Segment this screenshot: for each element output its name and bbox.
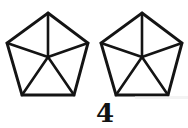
pentagon-left-spoke-lower-left [22,57,48,95]
pentagon-left-spoke-upper-right [48,43,88,57]
pentagon-right-spoke-lower-right [142,57,168,95]
pentagon-right [101,13,182,95]
figure-caption: 4 [0,99,188,127]
pentagon-right-spoke-lower-left [116,57,142,95]
pentagon-left-spoke-upper-left [7,43,48,57]
pentagon-left [7,13,88,95]
pentagon-right-spoke-upper-right [142,43,182,57]
figure-container: 4 [0,0,188,128]
pentagon-right-spoke-upper-left [101,43,142,57]
pentagon-left-spoke-lower-right [48,57,74,95]
